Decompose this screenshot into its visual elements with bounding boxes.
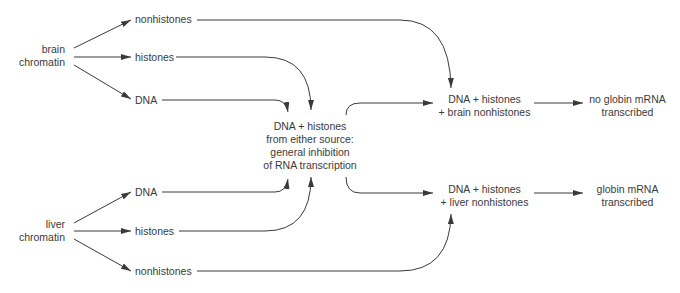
arrow-liver-nonhistones-to-combo	[197, 214, 451, 271]
brain-result-line1: no globin mRNA	[585, 93, 670, 106]
center-line2: from either source:	[250, 133, 370, 146]
brain-result-line2: transcribed	[585, 106, 670, 119]
center-line3: general inhibition	[250, 146, 370, 159]
arrow-brain-histones-to-center	[176, 57, 311, 110]
liver-combo-line2: + liver nonhistones	[437, 196, 532, 209]
arrow-brain-nonhistones-to-combo	[197, 20, 451, 88]
brain-dna-label: DNA	[135, 94, 157, 107]
brain-nonhistones-label: nonhistones	[135, 13, 192, 26]
arrow-liver-histones-to-center	[179, 177, 311, 231]
center-inhibition-label: DNA + histones from either source: gener…	[250, 120, 370, 172]
liver-label-line1: liver	[10, 218, 65, 231]
arrow-center-to-liver-combo	[346, 177, 433, 193]
brain-chromatin-label: brain chromatin	[10, 43, 65, 69]
brain-result-label: no globin mRNA transcribed	[585, 93, 670, 119]
arrow-brain-to-nonhistones	[74, 20, 131, 48]
liver-nonhistones-label: nonhistones	[135, 265, 192, 278]
liver-result-label: globin mRNA transcribed	[585, 183, 670, 209]
brain-histones-label: histones	[135, 51, 174, 64]
arrow-brain-to-dna	[74, 65, 131, 99]
brain-label-line2: chromatin	[10, 56, 65, 69]
liver-result-line2: transcribed	[585, 196, 670, 209]
brain-combo-line1: DNA + histones	[437, 93, 532, 106]
arrow-liver-to-dna	[74, 192, 131, 223]
liver-histones-label: histones	[135, 225, 174, 238]
liver-combo-label: DNA + histones + liver nonhistones	[437, 183, 532, 209]
brain-combo-label: DNA + histones + brain nonhistones	[437, 93, 532, 119]
arrow-liver-dna-to-center	[162, 179, 288, 192]
liver-label-line2: chromatin	[10, 231, 65, 244]
arrow-center-to-brain-combo	[346, 103, 433, 115]
center-line1: DNA + histones	[250, 120, 370, 133]
center-line4: of RNA transcription	[250, 159, 370, 172]
arrow-liver-to-nonhistones	[74, 239, 131, 271]
liver-chromatin-label: liver chromatin	[10, 218, 65, 244]
brain-label-line1: brain	[10, 43, 65, 56]
brain-combo-line2: + brain nonhistones	[437, 106, 532, 119]
liver-result-line1: globin mRNA	[585, 183, 670, 196]
liver-dna-label: DNA	[135, 186, 157, 199]
liver-combo-line1: DNA + histones	[437, 183, 532, 196]
arrow-brain-dna-to-center	[162, 100, 288, 112]
